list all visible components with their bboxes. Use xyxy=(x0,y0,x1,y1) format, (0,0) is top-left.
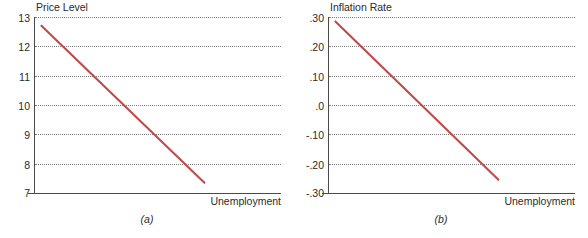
price-level-curve xyxy=(41,26,204,183)
y-tick-label: -.10 xyxy=(306,130,324,141)
phillips-curve-figure: Price Level 13 12 11 10 9 8 7 xyxy=(0,0,588,238)
y-axis-title-a: Price Level xyxy=(36,2,88,13)
y-tick-label: 9 xyxy=(24,130,30,141)
y-tick-label: 8 xyxy=(24,159,30,170)
chart-panel-b: Inflation Rate .30 .20 .10 .0 -.10 -.20 xyxy=(294,0,588,238)
x-axis-line-a xyxy=(28,193,281,194)
y-tick-label: 12 xyxy=(18,42,30,53)
y-tick-label: .20 xyxy=(309,42,324,53)
plot-area-a: 13 12 11 10 9 8 7 xyxy=(34,17,281,193)
y-tick-label: -.30 xyxy=(306,188,324,199)
y-tick-label: 11 xyxy=(19,71,30,82)
panel-caption-b: (b) xyxy=(294,214,588,225)
y-tick-label: 10 xyxy=(18,101,30,112)
y-tick-label: .0 xyxy=(315,101,324,112)
curve-svg-a xyxy=(34,17,281,193)
y-tick-label: 13 xyxy=(18,13,30,24)
inflation-rate-curve xyxy=(335,21,498,179)
chart-panel-a: Price Level 13 12 11 10 9 8 7 xyxy=(0,0,294,238)
panel-caption-a: (a) xyxy=(0,214,294,225)
x-axis-title-b: Unemployment xyxy=(504,196,575,207)
x-axis-line-b xyxy=(322,193,575,194)
x-axis-title-a: Unemployment xyxy=(210,196,281,207)
y-tick-label: .30 xyxy=(309,13,324,24)
curve-svg-b xyxy=(328,17,575,193)
y-tick-label: .10 xyxy=(309,71,324,82)
y-axis-title-b: Inflation Rate xyxy=(330,2,392,13)
y-tick-label: -.20 xyxy=(306,159,324,170)
plot-area-b: .30 .20 .10 .0 -.10 -.20 -.30 xyxy=(328,17,575,193)
y-tick-label: 7 xyxy=(24,188,30,199)
